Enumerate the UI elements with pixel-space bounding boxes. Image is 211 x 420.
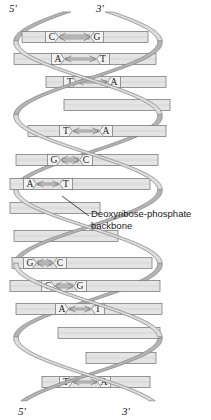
base-pair-rung: GC bbox=[12, 258, 152, 269]
svg-text:T: T bbox=[100, 54, 106, 64]
svg-text:G: G bbox=[94, 32, 101, 42]
callout-line-2: backbone bbox=[91, 220, 209, 232]
svg-text:C: C bbox=[49, 32, 55, 42]
base-pair-rung: GC bbox=[16, 155, 158, 166]
svg-text:A: A bbox=[27, 179, 34, 189]
label-5-prime-top: 5′ bbox=[9, 2, 17, 14]
svg-text:C: C bbox=[83, 155, 89, 165]
base-pair-rung: CG bbox=[22, 32, 148, 43]
label-3-prime-top: 3′ bbox=[96, 2, 104, 14]
svg-text:G: G bbox=[77, 281, 84, 291]
backbone-callout-label: Deoxyribose-phosphate backbone bbox=[91, 208, 209, 231]
svg-text:T: T bbox=[63, 179, 69, 189]
label-5-prime-bottom: 5′ bbox=[18, 405, 26, 417]
base-pair-rung: AT bbox=[10, 179, 150, 190]
svg-text:G: G bbox=[51, 155, 58, 165]
svg-text:A: A bbox=[55, 54, 62, 64]
base-pair-rung bbox=[58, 328, 160, 339]
base-pair-rung: TA bbox=[28, 126, 166, 137]
svg-text:A: A bbox=[59, 304, 66, 314]
svg-text:C: C bbox=[57, 258, 63, 268]
base-pair-rung: AT bbox=[16, 304, 162, 315]
svg-text:A: A bbox=[103, 126, 110, 136]
label-3-prime-bottom: 3′ bbox=[122, 405, 130, 417]
svg-text:T: T bbox=[63, 126, 69, 136]
base-pair-rung bbox=[10, 203, 100, 214]
svg-text:G: G bbox=[27, 258, 34, 268]
callout-line-1: Deoxyribose-phosphate bbox=[91, 208, 209, 220]
